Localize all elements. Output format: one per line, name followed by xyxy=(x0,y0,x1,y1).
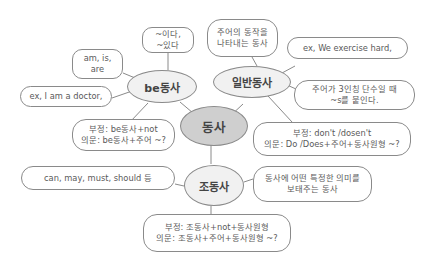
general-meaning-box: 주어의 동작을 나타내는 동사 xyxy=(207,19,278,57)
general-rules-box: 부정: don't /dosen't 의문: Do /Does+주어+동사원형 … xyxy=(253,122,411,156)
be-verb-label: be동사 xyxy=(144,79,179,95)
general-rules-text: 부정: don't /dosen't 의문: Do /Does+주어+동사원형 … xyxy=(264,128,399,150)
center-node-verb: 동사 xyxy=(180,106,248,146)
general-meaning-text: 주어의 동작을 나타내는 동사 xyxy=(217,27,268,49)
be-example-box: ex, I am a doctor, xyxy=(20,86,112,107)
be-forms-text: am, is, are xyxy=(84,53,112,75)
auxiliary-rules-text: 부정: 조동사+not+동사원형 의문: 조동사+주어+동사원형 ~? xyxy=(156,222,277,244)
auxiliary-forms-text: can, may, must, should 등 xyxy=(44,173,152,184)
auxiliary-rules-box: 부정: 조동사+not+동사원형 의문: 조동사+주어+동사원형 ~? xyxy=(143,214,291,252)
general-third-person-box: 주어가 3인칭 단수일 때 ~s를 붙인다. xyxy=(294,80,415,110)
be-forms-box: am, is, are xyxy=(72,49,123,79)
be-meaning-text: ~이다, ~있다 xyxy=(155,29,181,51)
general-example-box: ex, We exercise hard, xyxy=(287,37,408,59)
auxiliary-verb-label: 조동사 xyxy=(199,178,229,194)
be-rules-box: 부정: be동사+not 의문: be동사+주어 ~? xyxy=(72,119,175,151)
general-example-text: ex, We exercise hard, xyxy=(303,43,392,54)
general-verb-label: 일반동사 xyxy=(232,74,272,90)
be-meaning-box: ~이다, ~있다 xyxy=(142,27,194,53)
branch-node-be-verb: be동사 xyxy=(127,70,197,103)
center-label: 동사 xyxy=(202,117,226,136)
general-third-person-text: 주어가 3인칭 단수일 때 ~s를 붙인다. xyxy=(312,84,397,106)
be-example-text: ex, I am a doctor, xyxy=(29,91,102,102)
auxiliary-forms-box: can, may, must, should 등 xyxy=(21,166,175,190)
auxiliary-meaning-text: 동사에 어떤 특정한 의미를 보태주는 동사 xyxy=(265,173,361,195)
auxiliary-meaning-box: 동사에 어떤 특정한 의미를 보태주는 동사 xyxy=(253,166,372,202)
be-rules-text: 부정: be동사+not 의문: be동사+주어 ~? xyxy=(81,124,166,146)
branch-node-general-verb: 일반동사 xyxy=(213,66,291,98)
branch-node-auxiliary-verb: 조동사 xyxy=(184,165,244,206)
